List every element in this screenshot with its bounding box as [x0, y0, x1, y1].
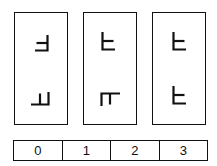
stimulus-panel-3 — [152, 12, 206, 125]
stimulus-panel-1 — [14, 12, 68, 125]
answer-option-1[interactable]: 1 — [63, 141, 112, 160]
answer-scale: 0 1 2 3 — [13, 140, 208, 161]
glyph-normal-upright — [101, 32, 115, 51]
answer-option-0[interactable]: 0 — [14, 141, 63, 160]
stimulus-panel-2 — [83, 12, 137, 125]
answer-option-3[interactable]: 3 — [160, 141, 208, 160]
glyph-normal-upright — [172, 86, 186, 105]
glyph-normal-rotated — [100, 92, 120, 106]
glyph-mirrored-rotated — [31, 92, 50, 106]
glyph-mirrored-upright — [35, 35, 49, 52]
glyph-normal-upright — [172, 32, 186, 51]
answer-option-2[interactable]: 2 — [111, 141, 160, 160]
